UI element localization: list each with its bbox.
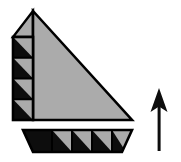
- technical-diagram: [0, 0, 181, 162]
- figure-canvas: [0, 0, 181, 162]
- direction-arrow-up: [151, 88, 168, 151]
- apex-cap-wedge: [13, 11, 33, 37]
- arrow-shaft: [158, 104, 161, 151]
- bottom-hatched-bar: [23, 130, 132, 152]
- main-gray-right-triangle: [33, 11, 132, 120]
- left-hatched-column: [13, 37, 33, 120]
